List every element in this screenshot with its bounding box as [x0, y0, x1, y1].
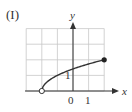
x-tick-label-0: 0 — [68, 94, 74, 106]
y-axis-arrow-icon — [70, 22, 76, 29]
x-axis-arrow-icon — [112, 88, 119, 94]
filled-endpoint — [102, 57, 107, 62]
x-axis-label: x — [121, 85, 127, 97]
chart: x y 0 1 1 — [0, 0, 132, 112]
x-tick-label-1: 1 — [85, 94, 91, 106]
grid — [26, 29, 104, 91]
y-axis-label: y — [69, 9, 75, 21]
open-endpoint — [39, 88, 44, 93]
